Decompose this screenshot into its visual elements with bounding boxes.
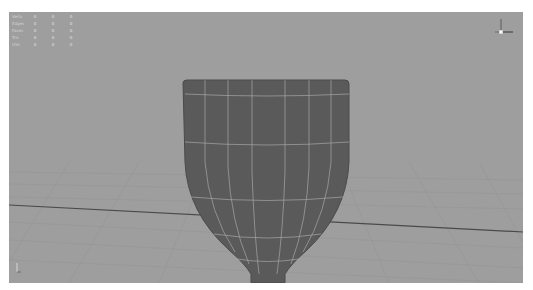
- hud-value: 0: [50, 42, 56, 47]
- hud-label: Faces: [12, 28, 30, 33]
- goblet-model: [183, 80, 349, 283]
- hud-value: 0: [32, 42, 38, 47]
- view-axis-gizmo-icon[interactable]: [489, 16, 517, 42]
- hud-value: 0: [32, 35, 38, 40]
- hud-value: 0: [68, 35, 74, 40]
- hud-value: 0: [68, 42, 74, 47]
- scene-canvas[interactable]: [9, 12, 523, 283]
- hud-value: 0: [32, 14, 38, 19]
- hud-label: UVs: [12, 42, 30, 47]
- hud-value: 0: [68, 21, 74, 26]
- origin-axis-icon: [13, 259, 23, 273]
- hud-value: 0: [32, 21, 38, 26]
- hud-value: 0: [32, 28, 38, 33]
- hud-value: 0: [50, 14, 56, 19]
- hud-value: 0: [50, 21, 56, 26]
- 3d-viewport[interactable]: Verts 0 0 0 Edges 0 0 0 Faces 0 0 0 Tris…: [9, 12, 523, 283]
- hud-label: Tris: [12, 35, 30, 40]
- hud-value: 0: [50, 35, 56, 40]
- hud-value: 0: [68, 14, 74, 19]
- hud-label: Verts: [12, 14, 30, 19]
- hud-label: Edges: [12, 21, 30, 26]
- hud-value: 0: [68, 28, 74, 33]
- hud-value: 0: [50, 28, 56, 33]
